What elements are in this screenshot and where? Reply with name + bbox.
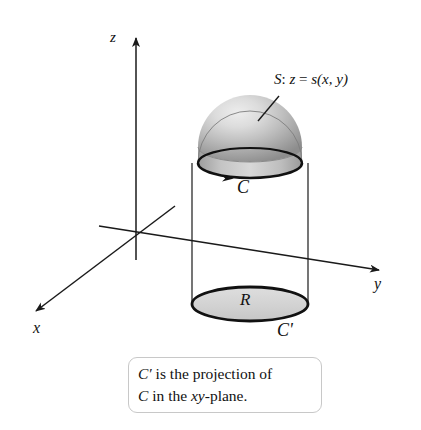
caption-c-prime-symbol: C′ bbox=[138, 365, 152, 382]
caption-line-2-suffix: -plane. bbox=[205, 387, 248, 404]
curve-C-prime-label: C' bbox=[277, 321, 293, 339]
axis-label-x: x bbox=[33, 320, 40, 336]
caption-xy-symbol: xy bbox=[191, 387, 205, 404]
caption-c-symbol: C bbox=[138, 387, 148, 404]
surface-function-expression: s(x, y) bbox=[311, 71, 348, 87]
axis-label-y: y bbox=[374, 276, 381, 292]
x-axis bbox=[36, 206, 175, 311]
surface-symbol: S bbox=[274, 71, 282, 87]
caption-line-1: C′ is the projection of bbox=[138, 363, 321, 385]
caption-line-2: C in the xy-plane. bbox=[138, 385, 321, 407]
axis-label-z: z bbox=[110, 30, 116, 45]
caption-line-2-text: in the bbox=[148, 387, 191, 404]
surface-equals: = bbox=[295, 71, 311, 87]
caption-line-1-text: is the projection of bbox=[152, 365, 273, 382]
cylinder-group bbox=[192, 163, 308, 304]
curve-C-label: C bbox=[237, 178, 249, 196]
caption-box: C′ is the projection of C in the xy-plan… bbox=[128, 357, 322, 413]
figure-canvas: z x y C R C' S: z = s(x, y) C′ is the pr… bbox=[0, 0, 421, 430]
region-R-label: R bbox=[240, 291, 250, 308]
surface-equation-label: S: z = s(x, y) bbox=[274, 72, 348, 87]
y-axis bbox=[99, 226, 379, 270]
surface-S-group bbox=[198, 95, 302, 178]
